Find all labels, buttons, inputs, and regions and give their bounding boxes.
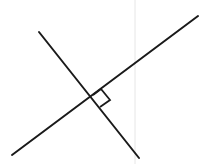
perpendicular-lines-diagram <box>0 0 208 164</box>
line-b <box>39 32 139 158</box>
line-a <box>12 16 198 155</box>
